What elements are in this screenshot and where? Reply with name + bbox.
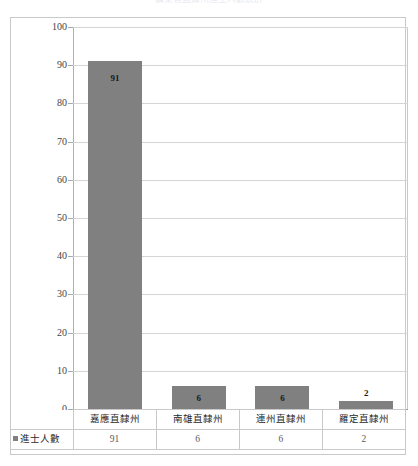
table-category-cell: 連州直隸州 [239, 410, 322, 430]
table-value-cell: 6 [156, 430, 239, 450]
table-value-cell: 91 [73, 430, 156, 450]
clipped-chart-title: 廣東省直隸州進士人數統計 [0, 0, 418, 7]
table-series-header: 進士人數 [11, 430, 74, 450]
plot-wrapper: 0102030405060708090100 91662 [73, 27, 408, 409]
y-axis-label-90: 90 [27, 60, 67, 70]
legend-square-marker-icon [13, 436, 18, 441]
y-axis-label-30: 30 [27, 289, 67, 299]
bar-value-label: 6 [280, 394, 285, 403]
bar-slot: 2 [324, 27, 408, 409]
bar-slot: 91 [73, 27, 157, 409]
chart-frame: 0102030405060708090100 91662 [10, 17, 406, 455]
y-axis-label-50: 50 [27, 213, 67, 223]
table-category-cell: 南雄直隸州 [156, 410, 239, 430]
y-axis-label-70: 70 [27, 137, 67, 147]
y-axis-label-100: 100 [27, 22, 67, 32]
y-axis-label-40: 40 [27, 251, 67, 261]
bar-slot: 6 [241, 27, 325, 409]
bar-value-label: 6 [196, 394, 201, 403]
bar-slot: 6 [157, 27, 241, 409]
data-table: 嘉應直隸州南雄直隸州連州直隸州羅定直隸州 進士人數91662 [10, 409, 406, 450]
table-row-categories: 嘉應直隸州南雄直隸州連州直隸州羅定直隸州 [11, 410, 406, 430]
table-category-cell: 羅定直隸州 [322, 410, 405, 430]
chart-screenshot: 廣東省直隸州進士人數統計 0102030405060708090100 9166… [0, 0, 418, 466]
table-category-cell: 嘉應直隸州 [73, 410, 156, 430]
table-value-cell: 2 [322, 430, 405, 450]
y-axis-label-80: 80 [27, 98, 67, 108]
bar-value-label: 91 [110, 74, 119, 83]
chart-title-text: 廣東省直隸州進士人數統計 [0, 0, 418, 3]
table-corner-cell [11, 410, 74, 430]
bar-value-label: 2 [364, 389, 369, 398]
table-row-values: 進士人數91662 [11, 430, 406, 450]
bar[interactable] [88, 61, 142, 409]
table-value-cell: 6 [239, 430, 322, 450]
y-axis-label-60: 60 [27, 175, 67, 185]
legend-series-label: 進士人數 [20, 434, 60, 444]
bars-layer: 91662 [73, 27, 408, 409]
y-axis-label-20: 20 [27, 328, 67, 338]
y-axis-label-10: 10 [27, 366, 67, 376]
bar[interactable] [339, 401, 393, 409]
